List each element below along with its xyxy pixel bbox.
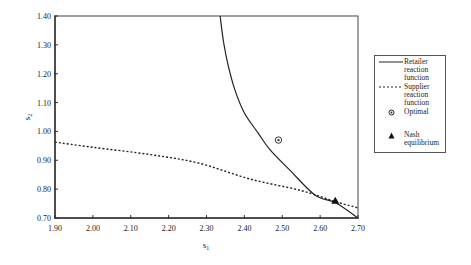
y-axis-label: s2	[22, 114, 33, 121]
series-layer	[55, 16, 358, 218]
y-tick-label: 0.70	[37, 214, 51, 223]
x-tick-label: 2.50	[275, 224, 289, 233]
solid-line-icon	[379, 60, 403, 64]
y-tick-label: 1.00	[37, 127, 51, 136]
legend-label-line: function	[404, 74, 446, 82]
x-tick-label: 1.90	[48, 224, 62, 233]
retailer-reaction-line	[220, 16, 358, 218]
y-tick-label: 0.80	[37, 185, 51, 194]
x-tick-label: 2.70	[351, 224, 365, 233]
axes	[55, 16, 358, 218]
legend: Retailer reaction function Supplier reac…	[374, 55, 446, 153]
y-tick-label: 1.30	[37, 41, 51, 50]
triangle-marker-icon	[388, 132, 395, 139]
y-tick-label: 1.40	[37, 12, 51, 21]
x-axis-label: s1	[203, 240, 210, 251]
dotted-line-icon	[379, 85, 403, 89]
legend-label-line: equilibrium	[404, 139, 446, 147]
x-tick-label: 2.60	[313, 224, 327, 233]
legend-label-line: function	[404, 99, 446, 107]
legend-label-line: Optimal	[404, 108, 446, 116]
optimal-point-center	[277, 139, 279, 141]
x-tick-label: 2.30	[200, 224, 214, 233]
ticks: 1.902.002.102.202.302.402.502.602.700.70…	[37, 12, 365, 233]
x-tick-label: 2.20	[162, 224, 176, 233]
x-tick-label: 2.10	[124, 224, 138, 233]
circle-marker-icon	[388, 109, 395, 116]
y-tick-label: 1.20	[37, 70, 51, 79]
x-tick-label: 2.40	[237, 224, 251, 233]
x-tick-label: 2.00	[86, 224, 100, 233]
supplier-reaction-line	[55, 142, 358, 208]
y-tick-label: 1.10	[37, 99, 51, 108]
y-tick-label: 0.90	[37, 156, 51, 165]
plot-frame	[55, 16, 358, 218]
